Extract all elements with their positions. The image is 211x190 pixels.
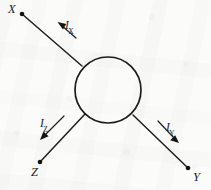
terminal-label-z: Z bbox=[31, 166, 38, 179]
central-node-circle bbox=[75, 57, 141, 123]
terminal-dot-y bbox=[186, 166, 191, 171]
terminal-label-y: Y bbox=[193, 171, 200, 184]
current-label-iy: IY bbox=[166, 122, 175, 136]
figure-container: X Z Y IX IZ IY bbox=[0, 0, 211, 190]
current-subscript-iz: Z bbox=[43, 125, 48, 134]
terminal-dot-x bbox=[20, 12, 25, 17]
current-label-iz: IZ bbox=[40, 118, 48, 132]
current-subscript-iy: Y bbox=[169, 129, 174, 138]
current-subscript-ix: X bbox=[68, 27, 73, 36]
terminal-label-x: X bbox=[8, 3, 16, 16]
terminal-dot-z bbox=[38, 160, 43, 165]
node-current-diagram bbox=[0, 0, 211, 190]
current-label-ix: IX bbox=[65, 20, 74, 34]
